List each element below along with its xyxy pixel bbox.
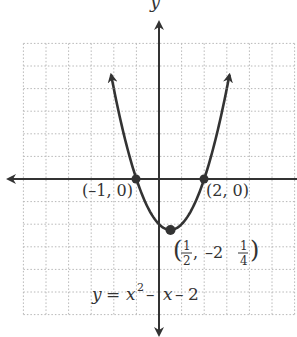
svg-text:2: 2 [137,281,144,294]
equation-label: y = x 2 – x – 2 [91,281,199,304]
svg-text:): ) [250,236,259,264]
svg-text:2: 2 [188,284,199,304]
svg-text:1: 1 [183,239,191,253]
label-point-left: (–1, 0) [82,181,133,200]
right-curve-arrow [227,75,230,89]
point-vertex [166,225,176,235]
svg-text:–2: –2 [205,243,223,262]
svg-text:2: 2 [183,254,191,268]
svg-text:(: ( [173,236,182,264]
label-point-right: (2, 0) [206,181,249,200]
svg-text:4: 4 [240,254,248,268]
svg-text:–: – [175,284,184,304]
svg-text:x: x [163,284,173,304]
label-vertex: ( 1 2 , –2 1 4 ) [173,236,259,268]
svg-text:,: , [193,243,198,262]
svg-text:1: 1 [240,239,248,253]
svg-text:–: – [146,284,155,304]
y-axis-label: y [149,0,161,12]
svg-text:y = x: y = x [91,284,136,304]
left-curve-arrow [111,75,114,89]
parabola-graph: y (–1, 0) (2, 0) ( 1 2 , –2 1 4 ) y = x … [0,0,297,337]
parabola-curve [114,89,227,230]
